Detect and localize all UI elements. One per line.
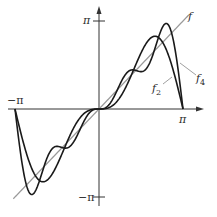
x-axis-arrow-icon [196, 107, 204, 112]
leader-f2 [163, 77, 172, 84]
y-tick-label-neg-pi: −π [78, 192, 94, 203]
label-f2: f2 [152, 83, 161, 97]
label-f: f [188, 11, 192, 22]
fourier-approximation-plot [0, 0, 217, 217]
y-tick-label-pi: π [83, 15, 90, 26]
y-axis-arrow-icon [97, 6, 102, 14]
label-f4: f4 [196, 73, 205, 87]
leader-f4 [180, 63, 196, 75]
label-f4-sub: 4 [200, 78, 205, 87]
x-tick-label-neg-pi: −π [7, 95, 23, 106]
x-tick-label-pi: π [179, 114, 186, 125]
label-f2-sub: 2 [156, 88, 161, 97]
